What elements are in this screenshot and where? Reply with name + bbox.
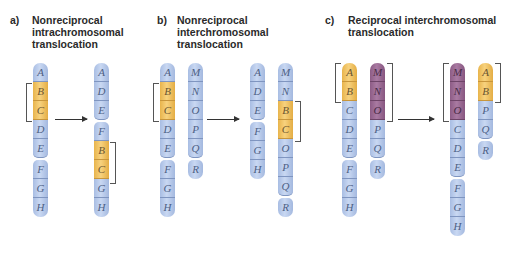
- band-o: O: [370, 101, 385, 120]
- band-h: H: [342, 198, 357, 217]
- bracket-a-after: [110, 142, 116, 184]
- band-p: P: [278, 158, 293, 177]
- arrow-c-icon: [398, 119, 434, 120]
- band-h: H: [94, 198, 109, 217]
- band-f: F: [33, 160, 48, 179]
- band-g: G: [450, 198, 465, 217]
- band-f: F: [450, 179, 465, 198]
- bracket-a-before: [26, 83, 32, 122]
- band-a: A: [342, 63, 357, 82]
- bracket-b-after: [295, 101, 301, 142]
- band-r: R: [370, 160, 385, 179]
- band-m: M: [188, 63, 203, 82]
- band-e: E: [33, 139, 48, 158]
- bracket-c-before-left: [335, 63, 341, 103]
- band-c: C: [33, 101, 48, 120]
- band-c: C: [450, 120, 465, 139]
- band-a: A: [94, 63, 109, 82]
- band-g: G: [250, 141, 265, 160]
- band-q: Q: [370, 139, 385, 158]
- band-c: C: [160, 101, 175, 120]
- chromosome-b-before-1: ABCDEFGH: [160, 63, 175, 217]
- band-n: N: [278, 82, 293, 101]
- band-b: B: [342, 82, 357, 101]
- bracket-c-after-left: [443, 63, 449, 122]
- band-c: C: [278, 120, 293, 139]
- band-c: C: [342, 101, 357, 120]
- band-h: H: [160, 198, 175, 217]
- band-m: M: [278, 63, 293, 82]
- band-f: F: [250, 122, 265, 141]
- panel-a-heading: Nonreciprocal intrachromosomal transloca…: [32, 14, 124, 50]
- band-n: N: [188, 82, 203, 101]
- band-b: B: [33, 82, 48, 101]
- band-a: A: [250, 63, 265, 82]
- band-o: O: [278, 139, 293, 158]
- band-b: B: [278, 101, 293, 120]
- band-f: F: [342, 160, 357, 179]
- chromosome-a-before-1: ABCDEFGH: [33, 63, 48, 217]
- band-p: P: [188, 120, 203, 139]
- chromosome-b-before-2: MNOPQR: [188, 63, 203, 179]
- band-m: M: [370, 63, 385, 82]
- band-d: D: [250, 82, 265, 101]
- panel-c-heading: Reciprocal interchromosomal translocatio…: [348, 14, 496, 38]
- band-g: G: [94, 179, 109, 198]
- panel-b-heading: Nonreciprocal interchromosomal transloca…: [177, 14, 269, 50]
- band-o: O: [450, 101, 465, 120]
- band-h: H: [250, 160, 265, 179]
- panel-a-letter: a): [10, 14, 19, 26]
- chromosome-b-after-1: ADEFGH: [250, 63, 265, 179]
- band-b: B: [160, 82, 175, 101]
- band-g: G: [33, 179, 48, 198]
- band-r: R: [478, 141, 493, 160]
- band-a: A: [160, 63, 175, 82]
- band-f: F: [160, 160, 175, 179]
- arrow-b-icon: [207, 119, 239, 120]
- chromosome-c-after-1: MNOCDEFGH: [450, 63, 465, 236]
- band-q: Q: [278, 177, 293, 196]
- band-m: M: [450, 63, 465, 82]
- band-e: E: [450, 158, 465, 177]
- chromosome-a-after-1: ADEFBCGH: [94, 63, 109, 217]
- band-b: B: [94, 141, 109, 160]
- band-d: D: [33, 120, 48, 139]
- band-p: P: [478, 101, 493, 120]
- band-e: E: [250, 101, 265, 120]
- bracket-c-before-right: [387, 63, 393, 122]
- band-h: H: [450, 217, 465, 236]
- band-r: R: [278, 198, 293, 217]
- band-q: Q: [478, 120, 493, 139]
- band-o: O: [188, 101, 203, 120]
- band-q: Q: [188, 139, 203, 158]
- band-r: R: [188, 160, 203, 179]
- panel-c-letter: c): [325, 14, 334, 26]
- band-n: N: [370, 82, 385, 101]
- band-a: A: [478, 63, 493, 82]
- band-d: D: [160, 120, 175, 139]
- chromosome-b-after-2: MNBCOPQR: [278, 63, 293, 217]
- band-a: A: [33, 63, 48, 82]
- panel-a-title: a) Nonreciprocal intrachromosomal transl…: [10, 14, 150, 54]
- band-d: D: [450, 139, 465, 158]
- band-c: C: [94, 160, 109, 179]
- panel-b-letter: b): [157, 14, 167, 26]
- band-e: E: [94, 101, 109, 120]
- band-e: E: [160, 139, 175, 158]
- chromosome-c-before-2: MNOPQR: [370, 63, 385, 179]
- band-p: P: [370, 120, 385, 139]
- bracket-b-before: [153, 83, 159, 122]
- band-d: D: [342, 120, 357, 139]
- band-h: H: [33, 198, 48, 217]
- band-d: D: [94, 82, 109, 101]
- bracket-c-after-right: [495, 63, 501, 103]
- chromosome-c-after-2: ABPQR: [478, 63, 493, 160]
- band-g: G: [160, 179, 175, 198]
- band-g: G: [342, 179, 357, 198]
- band-f: F: [94, 122, 109, 141]
- band-n: N: [450, 82, 465, 101]
- band-b: B: [478, 82, 493, 101]
- panel-b-title: b) Nonreciprocal interchromosomal transl…: [157, 14, 297, 54]
- panel-c-title: c) Reciprocal interchromosomal transloca…: [325, 14, 510, 44]
- chromosome-c-before-1: ABCDEFGH: [342, 63, 357, 217]
